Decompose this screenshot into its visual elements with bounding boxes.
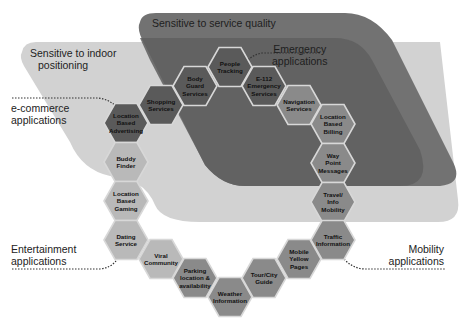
- hexagon-label-line: Guard: [173, 82, 217, 89]
- hexagon-label-parking-location-availability: Parkinglocation &availability: [173, 267, 217, 289]
- hexagon-label-line: Service: [104, 240, 148, 247]
- entertainment-line2: applications: [11, 255, 76, 267]
- hexagon-label-line: Messages: [311, 167, 355, 174]
- hexagon-label-traffic-information: TrafficInformation: [311, 233, 355, 248]
- hexagon-label-line: Information: [311, 240, 355, 247]
- hexagon-label-travel-info-mobility: Travel/InfoMobility: [311, 191, 355, 213]
- hexagon-label-line: Shopping: [139, 98, 183, 105]
- hexagon-label-dating-service: DatingService: [104, 233, 148, 248]
- hexagon-label-line: Location: [104, 190, 148, 197]
- hexagon-label-line: Travel/: [311, 191, 355, 198]
- hexagon-label-line: Info: [311, 198, 355, 205]
- hexagon-label-body-guard-services: BodyGuardServices: [173, 75, 217, 97]
- hexagon-label-buddy-finder: BuddyFinder: [104, 155, 148, 170]
- hexagon-label-location-based-gaming: LocationBasedGaming: [104, 190, 148, 212]
- hexagon-label-line: Services: [139, 105, 183, 112]
- hexagon-label-line: Weather: [208, 290, 252, 297]
- hexagon-label-line: Emergency: [242, 82, 286, 89]
- hexagon-label-line: Buddy: [104, 155, 148, 162]
- hexagon-label-line: Tour/City: [242, 271, 286, 278]
- hexagon-label-line: Gaming: [104, 205, 148, 212]
- hexagon-label-line: Viral: [139, 252, 183, 259]
- indoor-positioning-label-line1: Sensitive to indoor: [30, 47, 116, 59]
- hexagon-label-line: Guide: [242, 278, 286, 285]
- mobility-line2: applications: [386, 255, 444, 267]
- hexagon-label-line: Community: [139, 259, 183, 266]
- hexagon-label-line: Based: [311, 120, 355, 127]
- hexagon-label-line: Billing: [311, 128, 355, 135]
- hexagon-label-line: Services: [242, 90, 286, 97]
- hexagon-label-line: Way: [311, 152, 355, 159]
- hexagon-label-mobile-yellow-pages: MobileYellowPages: [277, 248, 321, 270]
- service-quality-label: Sensitive to service quality: [152, 17, 276, 29]
- hexagon-label-shopping-services: ShoppingServices: [139, 98, 183, 113]
- indoor-positioning-label: Sensitive to indoor positioning: [30, 47, 116, 71]
- hexagon-label-navigation-services: NavigationServices: [277, 98, 321, 113]
- hexagon-label-line: Services: [173, 90, 217, 97]
- hexagon-label-line: Pages: [277, 263, 321, 270]
- entertainment-line1: Entertainment: [11, 243, 76, 255]
- indoor-positioning-label-line2: positioning: [30, 59, 116, 71]
- ecommerce-line1: e-commerce: [11, 102, 69, 114]
- hexagon-label-line: Tracking: [208, 67, 252, 74]
- hexagon-label-line: Body: [173, 75, 217, 82]
- emergency-label-line2: applications: [272, 55, 327, 67]
- hexagon-label-line: Location: [104, 112, 148, 119]
- hexagon-label-location-based-billing: LocationBasedBilling: [311, 113, 355, 135]
- hexagon-label-line: Finder: [104, 162, 148, 169]
- hexagon-label-line: Advertising: [104, 127, 148, 134]
- entertainment-category-label: Entertainment applications: [11, 243, 76, 267]
- hexagon-label-line: Traffic: [311, 233, 355, 240]
- hexagon-label-way-point-messages: WayPointMessages: [311, 152, 355, 174]
- hexagon-label-e112-emergency-services: E-112EmergencyServices: [242, 75, 286, 97]
- hexagon-label-line: availability: [173, 282, 217, 289]
- hexagon-label-line: Based: [104, 197, 148, 204]
- hexagon-label-viral-community: ViralCommunity: [139, 252, 183, 267]
- hexagon-label-line: E-112: [242, 75, 286, 82]
- hexagon-label-people-tracking: PeopleTracking: [208, 60, 252, 75]
- hexagon-label-line: Location: [311, 113, 355, 120]
- hexagon-label-line: Point: [311, 159, 355, 166]
- ecommerce-category-label: e-commerce applications: [11, 102, 69, 126]
- hexagon-label-line: Mobility: [311, 206, 355, 213]
- hexagon-label-line: Dating: [104, 233, 148, 240]
- ecommerce-line2: applications: [11, 114, 69, 126]
- hexagon-label-weather-information: WeatherInformation: [208, 290, 252, 305]
- mobility-line1: Mobility: [396, 243, 444, 255]
- hexagon-label-line: location &: [173, 274, 217, 281]
- hexagon-label-line: Parking: [173, 267, 217, 274]
- hexagon-label-line: Services: [277, 105, 321, 112]
- emergency-label-line1: Emergency: [272, 43, 327, 55]
- hexagon-label-line: Yellow: [277, 255, 321, 262]
- emergency-label: Emergency applications: [272, 43, 327, 67]
- hexagon-label-location-based-advertising: LocationBasedAdvertising: [104, 112, 148, 134]
- mobility-category-label: Mobility applications: [396, 243, 444, 267]
- hexagon-label-line: Mobile: [277, 248, 321, 255]
- hexagon-label-line: Information: [208, 297, 252, 304]
- hexagon-label-tour-city-guide: Tour/CityGuide: [242, 271, 286, 286]
- hexagon-label-line: Navigation: [277, 98, 321, 105]
- hexagon-label-line: Based: [104, 119, 148, 126]
- hexagon-label-line: People: [208, 60, 252, 67]
